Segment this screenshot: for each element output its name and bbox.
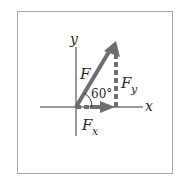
svg-text:y: y	[130, 83, 138, 96]
fx-label: F x	[81, 116, 99, 138]
y-axis-label: y	[69, 31, 79, 47]
angle-label: 60°	[91, 87, 112, 101]
fx-arrowhead-icon	[100, 101, 115, 113]
fy-label: F y	[120, 74, 138, 96]
force-diagram: y x F 60° F y F x	[0, 0, 180, 179]
force-label: F	[79, 65, 91, 83]
x-axis-label: x	[145, 98, 153, 114]
svg-text:x: x	[92, 125, 99, 138]
